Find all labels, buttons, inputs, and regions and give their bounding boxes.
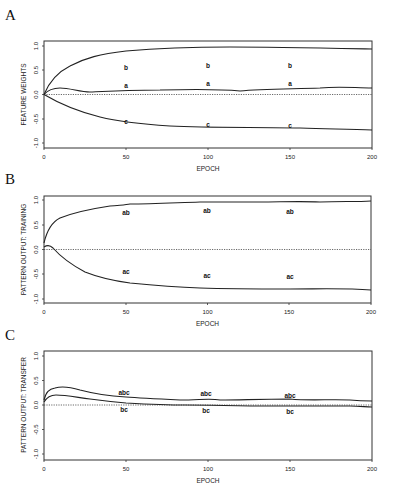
curve-label-abc: abc	[284, 392, 296, 399]
panel-b-letter: B	[5, 171, 15, 187]
curve-label-b: b	[206, 62, 210, 69]
curve-label-ab: ab	[203, 207, 211, 214]
curve-label-bc: bc	[202, 407, 210, 414]
x-tick-label: 150	[284, 309, 295, 315]
panel-c-x-axis-title: EPOCH	[196, 477, 219, 484]
x-tick-label: 200	[367, 154, 378, 160]
y-tick-label: -0.5	[33, 424, 39, 435]
curve-label-ab: ab	[122, 209, 130, 216]
x-tick-label: 200	[366, 309, 377, 315]
panel-b: B 1.0 0.5 0.0 -0.5 -1.0 0 50 100 150 200	[5, 171, 377, 327]
series-a-line	[44, 87, 372, 94]
curve-label-ac: ac	[286, 273, 294, 280]
curve-label-ab: ab	[286, 208, 294, 215]
y-tick-label: 0.0	[33, 400, 39, 409]
curve-label-c: c	[124, 118, 128, 125]
panel-c-y-ticks: 1.0 0.5 0.0 -0.5 -1.0	[33, 351, 44, 459]
panel-a-y-ticks: 1.0 0.5 0.0 -0.5 -1.0	[33, 41, 44, 148]
curve-label-a: a	[206, 80, 210, 87]
x-tick-label: 150	[285, 154, 296, 160]
curve-label-c: c	[288, 122, 292, 129]
y-tick-label: -0.5	[33, 113, 39, 124]
panel-c-letter: C	[5, 327, 15, 343]
x-tick-label: 150	[285, 466, 296, 472]
panel-c-y-axis-title: PATTERN OUTPUT: TRANSFER	[20, 357, 27, 453]
panel-c: C 1.0 0.5 0.0 -0.5 -1.0 0 50 100 150 200	[5, 327, 378, 484]
y-tick-label: -1.0	[33, 448, 39, 459]
y-tick-label: -1.0	[33, 293, 39, 304]
curve-label-a: a	[288, 80, 292, 87]
panel-a-x-ticks: 0 50 100 150 200	[42, 148, 377, 160]
panel-a-letter: A	[5, 7, 16, 23]
curve-label-b: b	[288, 62, 292, 69]
y-tick-label: 0.0	[33, 90, 39, 99]
curve-label-ac: ac	[203, 272, 211, 279]
y-tick-label: -0.5	[33, 268, 39, 279]
figure: A 1.0 0.5 0.0 -0.5 -1.0 0 50 100 150 200	[0, 0, 395, 494]
y-tick-label: 1.0	[33, 41, 39, 50]
curve-label-abc: abc	[118, 389, 130, 396]
curve-label-b: b	[124, 64, 128, 71]
y-tick-label: -1.0	[33, 137, 39, 148]
y-tick-label: 1.0	[33, 195, 39, 204]
curve-label-bc: bc	[286, 408, 294, 415]
panel-a: A 1.0 0.5 0.0 -0.5 -1.0 0 50 100 150 200	[5, 7, 378, 172]
x-tick-label: 50	[123, 466, 130, 472]
panel-b-y-axis-title: PATTERN OUTPUT: TRAINING	[20, 204, 27, 296]
curve-label-abc: abc	[200, 390, 212, 397]
y-tick-label: 0.5	[33, 376, 39, 385]
x-tick-label: 100	[203, 154, 214, 160]
x-tick-label: 0	[42, 309, 46, 315]
y-tick-label: 0.0	[33, 245, 39, 254]
x-tick-label: 50	[123, 154, 130, 160]
x-tick-label: 100	[202, 309, 213, 315]
series-ac-line	[44, 246, 371, 290]
panel-b-x-ticks: 0 50 100 150 200	[42, 303, 376, 315]
y-tick-label: 0.5	[33, 220, 39, 229]
panel-b-x-axis-title: EPOCH	[196, 320, 219, 327]
curve-label-c: c	[206, 121, 210, 128]
x-tick-label: 200	[367, 466, 378, 472]
panel-b-y-ticks: 1.0 0.5 0.0 -0.5 -1.0	[33, 195, 44, 304]
x-tick-label: 0	[42, 154, 46, 160]
x-tick-label: 50	[123, 309, 130, 315]
curve-label-ac: ac	[122, 268, 130, 275]
y-tick-label: 1.0	[33, 351, 39, 360]
panel-a-y-axis-title: FEATURE WEIGHTS	[20, 63, 27, 126]
y-tick-label: 0.5	[33, 65, 39, 74]
x-tick-label: 0	[42, 466, 46, 472]
panel-a-x-axis-title: EPOCH	[196, 165, 219, 172]
curve-label-a: a	[124, 82, 128, 89]
x-tick-label: 100	[203, 466, 214, 472]
curve-label-bc: bc	[120, 406, 128, 413]
panel-c-x-ticks: 0 50 100 150 200	[42, 460, 377, 472]
